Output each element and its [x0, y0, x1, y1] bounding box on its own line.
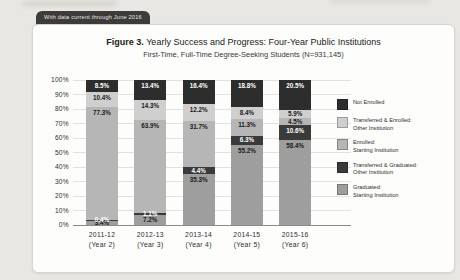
- x-axis-cohort-label: (Year 6): [267, 240, 323, 250]
- legend-label: Not Enrolled: [353, 99, 384, 107]
- stacked-bar-2011-12: 3.4%0.4%77.3%10.4%8.5%: [86, 80, 118, 225]
- chart-legend: Not EnrolledTransferred & Enrolled:Other…: [337, 99, 449, 207]
- segment-value-label: 4.5%: [271, 118, 319, 125]
- segment-value-label: 35.3%: [175, 176, 223, 183]
- report-figure-page: { "banner": { "label": "With data curren…: [0, 0, 460, 280]
- figure-subtitle: First-Time, Full-Time Degree-Seeking Stu…: [33, 50, 454, 59]
- segment-value-label: 5.9%: [271, 110, 319, 117]
- legend-swatch-icon: [337, 117, 348, 128]
- legend-label: Transferred & Graduated:Other Institutio…: [353, 162, 418, 177]
- segment-value-label: 18.8%: [223, 82, 271, 89]
- y-axis-tick-label: 0%: [39, 221, 69, 228]
- y-axis-tick-label: 70%: [39, 120, 69, 127]
- plot-area: 0%10%20%30%40%50%60%70%80%90%100%3.4%0.4…: [73, 80, 351, 226]
- segment-value-label: 58.4%: [271, 142, 319, 149]
- stacked-bar-2012-13: 7.2%1.1%63.9%14.3%13.4%: [134, 80, 166, 225]
- segment-value-label: 1.1%: [126, 210, 174, 217]
- legend-label-line: Starting Institution: [353, 147, 399, 155]
- y-axis-tick-label: 50%: [39, 149, 69, 156]
- x-axis-category: 2015-16(Year 6): [267, 230, 323, 250]
- legend-label-line: Other Institution: [353, 169, 418, 177]
- legend-entry: Graduated:Starting Institution: [337, 184, 449, 199]
- segment-value-label: 20.5%: [271, 82, 319, 89]
- legend-entry: Transferred & Enrolled:Other Institution: [337, 117, 449, 132]
- segment-value-label: 12.2%: [175, 106, 223, 113]
- banner-text: With data current through June 2016: [44, 14, 142, 20]
- segment-value-label: 10.6%: [271, 127, 319, 134]
- y-axis-tick-label: 90%: [39, 91, 69, 98]
- legend-label-line: Transferred & Graduated:: [353, 162, 418, 170]
- y-axis-tick-label: 60%: [39, 134, 69, 141]
- stacked-bar-2015-16: 58.4%10.6%4.5%5.9%20.5%: [279, 80, 311, 225]
- segment-value-label: 14.3%: [126, 102, 174, 109]
- segment-value-label: 8.4%: [223, 109, 271, 116]
- legend-swatch-icon: [337, 139, 348, 150]
- segment-value-label: 8.5%: [78, 82, 126, 89]
- stacked-bar-2013-14: 35.3%4.4%31.7%12.2%16.4%: [183, 80, 215, 225]
- figure-number: Figure 3.: [106, 37, 144, 47]
- y-axis-tick-label: 100%: [39, 76, 69, 83]
- legend-entry: Enrolled:Starting Institution: [337, 139, 449, 154]
- bar-segment: [279, 140, 311, 225]
- y-axis-tick-label: 40%: [39, 163, 69, 170]
- stacked-bar-2014-15: 55.2%6.3%11.3%8.4%18.8%: [231, 80, 263, 225]
- bar-segment: [134, 120, 166, 213]
- legend-label-line: Transferred & Enrolled:: [353, 117, 412, 125]
- bar-segment: [231, 145, 263, 225]
- legend-label: Enrolled:Starting Institution: [353, 139, 399, 154]
- segment-value-label: 13.4%: [126, 82, 174, 89]
- segment-value-label: 16.4%: [175, 82, 223, 89]
- legend-entry: Transferred & Graduated:Other Institutio…: [337, 162, 449, 177]
- segment-value-label: 0.4%: [78, 216, 126, 223]
- y-axis-tick-label: 30%: [39, 178, 69, 185]
- figure-card: Figure 3. Yearly Success and Progress: F…: [32, 24, 455, 273]
- legend-label-line: Other Institution: [353, 125, 412, 133]
- segment-value-label: 7.2%: [126, 216, 174, 223]
- segment-value-label: 10.4%: [78, 94, 126, 101]
- segment-value-label: 63.9%: [126, 122, 174, 129]
- segment-value-label: 4.4%: [175, 167, 223, 174]
- scan-artifact: [330, 0, 430, 3]
- segment-value-label: 31.7%: [175, 123, 223, 130]
- segment-value-label: 11.3%: [223, 121, 271, 128]
- figure-title-text: Yearly Success and Progress: Four-Year P…: [144, 37, 381, 47]
- x-axis-year-label: 2015-16: [267, 230, 323, 240]
- legend-swatch-icon: [337, 162, 348, 173]
- legend-label-line: Enrolled:: [353, 139, 399, 147]
- figure-title: Figure 3. Yearly Success and Progress: F…: [33, 37, 454, 47]
- legend-label-line: Starting Institution: [353, 192, 399, 200]
- segment-value-label: 55.2%: [223, 147, 271, 154]
- legend-swatch-icon: [337, 184, 348, 195]
- segment-value-label: 6.3%: [223, 136, 271, 143]
- legend-label: Transferred & Enrolled:Other Institution: [353, 117, 412, 132]
- bar-segment: [86, 107, 118, 219]
- legend-label: Graduated:Starting Institution: [353, 184, 399, 199]
- legend-label-line: Not Enrolled: [353, 99, 384, 107]
- y-axis-tick-label: 80%: [39, 105, 69, 112]
- legend-label-line: Graduated:: [353, 184, 399, 192]
- legend-swatch-icon: [337, 99, 348, 110]
- y-axis-tick-label: 20%: [39, 192, 69, 199]
- segment-value-label: 77.3%: [78, 109, 126, 116]
- y-axis-tick-label: 10%: [39, 207, 69, 214]
- scan-artifact: [22, 1, 117, 6]
- legend-entry: Not Enrolled: [337, 99, 449, 110]
